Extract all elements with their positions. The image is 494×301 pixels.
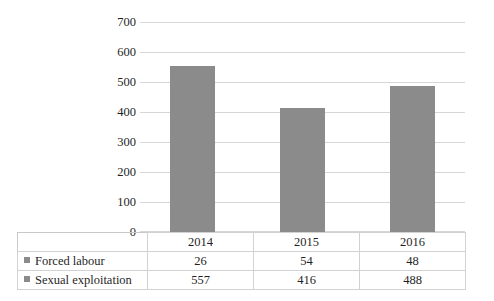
table-row: Sexual exploitation 557 416 488: [18, 271, 466, 290]
cell-sexual-exploitation-2015: 416: [254, 271, 360, 290]
table-row: Forced labour 26 54 48: [18, 252, 466, 271]
legend-swatch-icon: [24, 257, 30, 263]
table-header-row: 2014 2015 2016: [18, 233, 466, 252]
bar-2016: [390, 86, 435, 232]
table-header-2014: 2014: [148, 233, 254, 252]
bar-2014: [170, 66, 215, 232]
cell-forced-labour-2016: 48: [360, 252, 466, 271]
legend-label-forced-labour: Forced labour: [35, 254, 105, 268]
cell-forced-labour-2014: 26: [148, 252, 254, 271]
y-axis-tick-700: 700: [100, 16, 136, 29]
legend-item-sexual-exploitation: Sexual exploitation: [18, 271, 148, 290]
cell-sexual-exploitation-2016: 488: [360, 271, 466, 290]
y-axis-tick-300: 300: [100, 136, 136, 149]
gridline-600: [140, 52, 465, 53]
bar-chart-figure: 700 600 500 400 300 200 100 0: [0, 0, 494, 301]
plot-area: [140, 22, 465, 232]
table-header-2015: 2015: [254, 233, 360, 252]
legend-item-forced-labour: Forced labour: [18, 252, 148, 271]
bar-2015: [280, 108, 325, 232]
y-axis-tick-500: 500: [100, 76, 136, 89]
y-axis-tick-100: 100: [100, 196, 136, 209]
legend-swatch-icon: [24, 276, 30, 282]
y-axis-tick-400: 400: [100, 106, 136, 119]
y-axis-tick-200: 200: [100, 166, 136, 179]
table-corner-blank: [18, 233, 148, 252]
cell-forced-labour-2015: 54: [254, 252, 360, 271]
table-header-2016: 2016: [360, 233, 466, 252]
cell-sexual-exploitation-2014: 557: [148, 271, 254, 290]
data-table: 2014 2015 2016 Forced labour 26 54 48 Se…: [17, 232, 466, 290]
gridline-700: [140, 22, 465, 23]
y-axis-tick-600: 600: [100, 46, 136, 59]
legend-label-sexual-exploitation: Sexual exploitation: [35, 273, 132, 287]
